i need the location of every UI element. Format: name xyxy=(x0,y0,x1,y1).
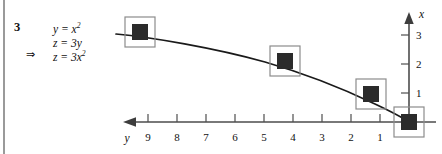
horizontal-axis-arrowhead xyxy=(123,117,136,127)
x-tick-label-9: 9 xyxy=(145,131,151,143)
vertical-axis-label: x xyxy=(418,8,425,20)
vertical-axis-arrowhead xyxy=(404,12,413,24)
x-tick-label-3: 3 xyxy=(319,131,325,143)
x-tick-label-8: 8 xyxy=(174,131,180,143)
horizontal-axis-ticks xyxy=(148,114,380,122)
x-tick-label-1: 1 xyxy=(377,131,383,143)
vertical-axis-ticks xyxy=(401,35,409,93)
y-tick-label-3: 3 xyxy=(416,29,422,41)
data-point-marker[interactable] xyxy=(356,79,386,109)
x-tick-label-6: 6 xyxy=(232,131,238,143)
horizontal-axis-tick-labels: 9 8 7 6 5 4 3 2 1 xyxy=(145,131,383,143)
x-tick-label-4: 4 xyxy=(290,131,296,143)
figure-page: 3 y = x2 z = 3y ⇒z = 3x2 xyxy=(0,0,442,154)
horizontal-axis-label: y xyxy=(123,132,130,145)
graph-plot: 9 8 7 6 5 4 3 2 1 3 2 1 y x xyxy=(0,0,442,154)
x-tick-label-5: 5 xyxy=(261,131,267,143)
y-tick-label-2: 2 xyxy=(416,58,422,70)
vertical-axis-tick-labels: 3 2 1 xyxy=(416,29,422,99)
x-tick-label-2: 2 xyxy=(348,131,354,143)
x-tick-label-7: 7 xyxy=(203,131,209,143)
y-tick-label-1: 1 xyxy=(416,87,422,99)
data-point-marker[interactable] xyxy=(125,17,155,47)
